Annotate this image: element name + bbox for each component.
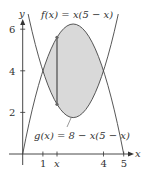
x-tick-label-4: 4 <box>101 158 107 169</box>
y-axis-arrow-icon <box>20 19 25 25</box>
x-axis-label: x <box>135 148 141 159</box>
area-between-curves-plot: f(x) = x(5 − x) g(x) = 8 − x(5 − x) y x … <box>0 0 151 180</box>
f-label: f(x) = x(5 − x) <box>40 9 113 20</box>
segment-top-point <box>55 36 58 39</box>
x-tick-label-x: x <box>54 158 60 169</box>
g-label-leader <box>67 118 71 127</box>
g-label: g(x) = 8 − x(5 − x) <box>34 130 130 141</box>
shaded-region <box>43 24 104 118</box>
segment-bottom-point <box>55 103 58 106</box>
y-tick-label-2: 2 <box>9 107 15 118</box>
x-axis-arrow-icon <box>128 152 134 157</box>
x-tick-label-1: 1 <box>40 158 46 169</box>
y-axis-label: y <box>18 8 25 19</box>
x-tick-label-5: 5 <box>121 158 127 169</box>
y-tick-label-4: 4 <box>9 66 15 77</box>
y-tick-label-6: 6 <box>9 24 15 35</box>
